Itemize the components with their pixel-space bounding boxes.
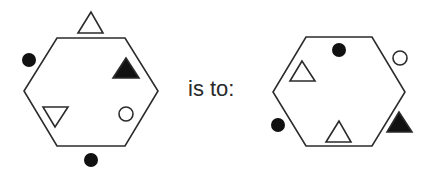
black-dot-icon: [271, 118, 285, 132]
connector-text: is to:: [188, 76, 234, 102]
outline-circle-icon: [393, 51, 407, 65]
right-figure: [271, 37, 412, 146]
black-dot-icon: [332, 43, 346, 57]
outline-triangle-icon: [290, 61, 315, 81]
outline-triangle-icon: [326, 121, 351, 142]
outline-triangle-icon: [78, 12, 103, 33]
black-triangle-icon: [113, 58, 139, 78]
left-hexagon: [24, 38, 158, 146]
outline-circle-icon: [119, 107, 133, 121]
left-figure: [22, 12, 158, 167]
black-dot-icon: [84, 153, 98, 167]
black-dot-icon: [22, 53, 36, 67]
inverted-outline-triangle-icon: [43, 107, 68, 127]
